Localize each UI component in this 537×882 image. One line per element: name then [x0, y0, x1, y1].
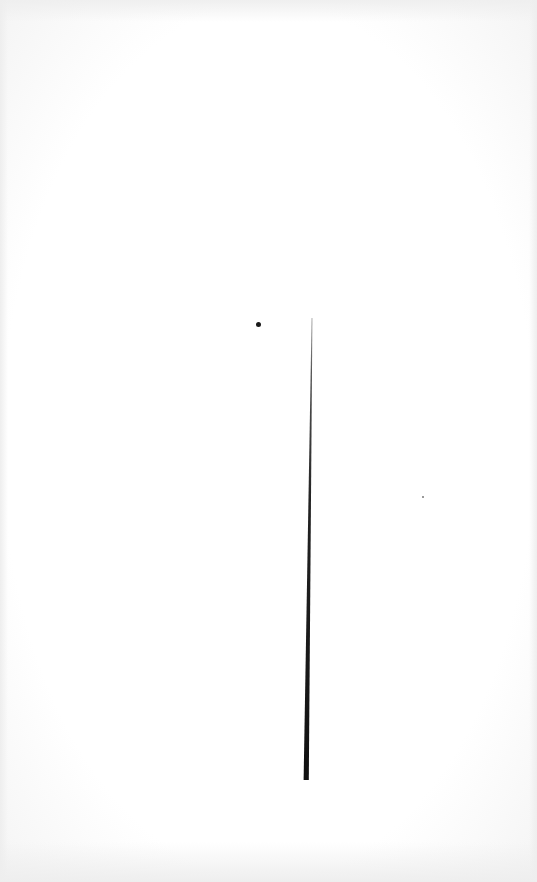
dot	[256, 322, 261, 327]
speck	[422, 496, 424, 498]
white-surface: White surface with a thin dark tapering …	[0, 0, 537, 882]
line-shape	[304, 318, 313, 780]
tapered-line	[0, 0, 537, 882]
